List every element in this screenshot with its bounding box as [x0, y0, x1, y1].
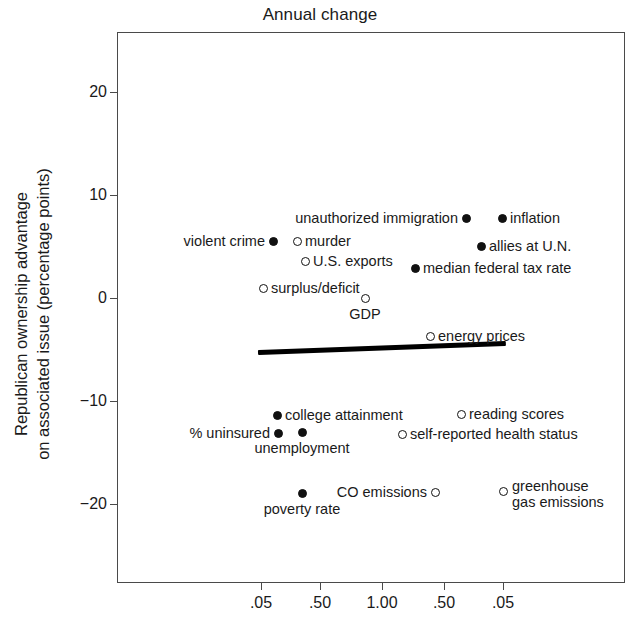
- x-tick-label: 1.00: [352, 594, 412, 612]
- data-point-label: poverty rate: [222, 501, 382, 517]
- data-point[interactable]: [499, 487, 508, 496]
- y-axis-label-line-2: on associated issue (percentage points): [32, 34, 54, 594]
- data-point[interactable]: [411, 264, 420, 273]
- data-point[interactable]: [477, 242, 486, 251]
- data-point[interactable]: [426, 332, 435, 341]
- data-point-label: self-reported health status: [410, 426, 578, 442]
- x-tick-mark: [444, 583, 445, 590]
- y-tick-mark: [110, 401, 117, 402]
- data-point-label: murder: [305, 233, 351, 249]
- scatter-plot-figure: Annual change Republican ownership advan…: [0, 0, 640, 630]
- data-point[interactable]: [398, 430, 407, 439]
- data-point-label: CO emissions: [337, 484, 427, 500]
- x-tick-mark: [382, 583, 383, 590]
- x-tick-mark: [320, 583, 321, 590]
- data-point[interactable]: [298, 428, 307, 437]
- x-tick-mark: [261, 583, 262, 590]
- x-tick-label: .05: [231, 594, 291, 612]
- data-point[interactable]: [498, 214, 507, 223]
- data-point[interactable]: [269, 237, 278, 246]
- data-point[interactable]: [457, 410, 466, 419]
- data-point-label: GDP: [285, 306, 445, 322]
- data-point-label: unauthorized immigration: [295, 210, 458, 226]
- data-point-label: allies at U.N.: [489, 238, 571, 254]
- x-tick-label: .50: [414, 594, 474, 612]
- data-point-label: college attainment: [285, 407, 403, 423]
- data-point-label: % uninsured: [189, 425, 270, 441]
- data-point-label: surplus/deficit: [271, 280, 360, 296]
- data-point[interactable]: [273, 411, 282, 420]
- data-point[interactable]: [361, 294, 370, 303]
- x-tick-label: .50: [290, 594, 350, 612]
- y-tick-mark: [110, 195, 117, 196]
- y-axis-label: Republican ownership advantage on associ…: [10, 34, 54, 594]
- data-point[interactable]: [298, 489, 307, 498]
- data-point-label: unemployment: [222, 440, 382, 456]
- y-tick-mark: [110, 298, 117, 299]
- data-point-label: U.S. exports: [313, 253, 393, 269]
- data-point[interactable]: [301, 257, 310, 266]
- x-tick-label: .05: [473, 594, 533, 612]
- data-point-label: reading scores: [469, 406, 564, 422]
- y-tick-label: 20: [55, 83, 107, 101]
- y-tick-mark: [110, 92, 117, 93]
- data-point[interactable]: [431, 488, 440, 497]
- data-point-label: greenhouse gas emissions: [512, 478, 608, 510]
- data-point-label: inflation: [510, 210, 560, 226]
- x-tick-mark: [503, 583, 504, 590]
- chart-title: Annual change: [0, 5, 640, 25]
- data-point-label: median federal tax rate: [423, 260, 571, 276]
- data-point[interactable]: [259, 284, 268, 293]
- data-point[interactable]: [462, 214, 471, 223]
- y-tick-mark: [110, 504, 117, 505]
- data-point-label: violent crime: [184, 233, 265, 249]
- y-axis-label-line-1: Republican ownership advantage: [10, 34, 32, 594]
- y-tick-label: 10: [55, 186, 107, 204]
- y-tick-label: 0: [55, 289, 107, 307]
- data-point[interactable]: [293, 237, 302, 246]
- data-point-label: energy prices: [438, 328, 525, 344]
- y-tick-label: −20: [55, 495, 107, 513]
- y-tick-label: −10: [55, 392, 107, 410]
- data-point[interactable]: [274, 429, 283, 438]
